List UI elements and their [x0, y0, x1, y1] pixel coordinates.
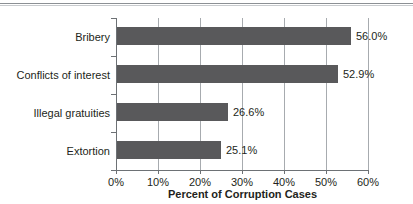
category-label-2: Illegal gratuities [0, 107, 110, 119]
x-tick-label-60: 60% [348, 176, 388, 188]
x-tick-label-50: 50% [306, 176, 346, 188]
x-axis-tick [242, 170, 243, 174]
category-label-3: Extortion [0, 145, 110, 157]
x-axis-tick [158, 170, 159, 174]
data-label-bribery: 56.0% [356, 30, 387, 42]
data-label-conflicts-of-interest: 52.9% [343, 68, 374, 80]
x-axis-tick [200, 170, 201, 174]
category-label-0: Bribery [0, 31, 110, 43]
top-divider-rule-shadow [0, 5, 413, 6]
x-tick-label-20: 20% [180, 176, 220, 188]
bar-bribery [116, 27, 351, 45]
data-label-extortion: 25.1% [226, 144, 257, 156]
top-divider-rule [0, 3, 413, 4]
x-tick-label-10: 10% [138, 176, 178, 188]
x-axis-tick [326, 170, 327, 174]
bar-extortion [116, 141, 221, 159]
x-axis-tick [284, 170, 285, 174]
chart-figure: Bribery Conflicts of interest Illegal gr… [0, 0, 413, 204]
data-label-illegal-gratuities: 26.6% [233, 106, 264, 118]
x-axis-tick [368, 170, 369, 174]
x-tick-label-30: 30% [222, 176, 262, 188]
bar-illegal-gratuities [116, 103, 228, 121]
bar-conflicts-of-interest [116, 65, 338, 83]
x-tick-label-0: 0% [96, 176, 136, 188]
x-tick-label-40: 40% [264, 176, 304, 188]
category-label-1: Conflicts of interest [0, 69, 110, 81]
x-axis-title: Percent of Corruption Cases [116, 188, 369, 200]
x-axis-tick [116, 170, 117, 174]
y-axis-line [116, 18, 117, 170]
